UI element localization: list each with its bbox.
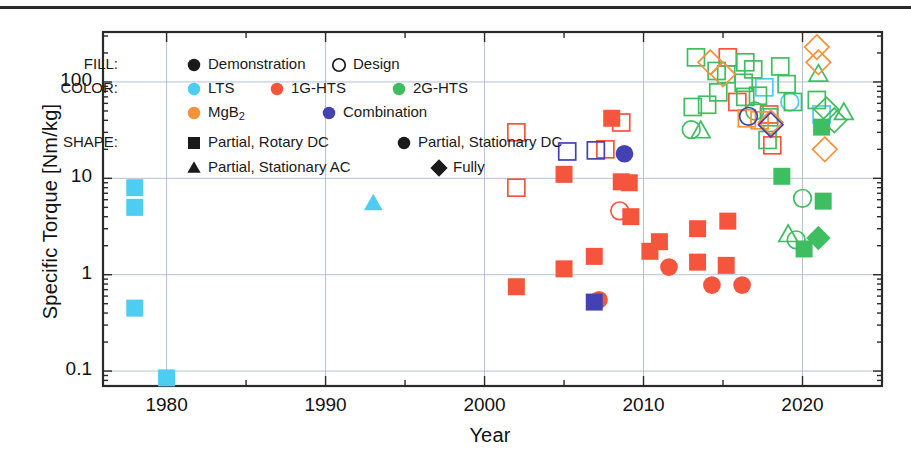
data-point <box>813 137 837 161</box>
data-point <box>586 294 603 311</box>
data-point <box>764 137 781 154</box>
y-tick-label: 0.1 <box>22 358 92 380</box>
data-point <box>689 220 706 237</box>
y-axis-title: Specific Torque [Nm/kg] <box>39 82 62 342</box>
data-point <box>126 300 143 317</box>
data-point <box>719 213 736 230</box>
data-point <box>587 142 604 159</box>
data-point <box>603 110 620 127</box>
legend-section-caption: FILL: <box>84 55 118 72</box>
legend-item-label: 1G-HTS <box>291 79 346 96</box>
legend-item-label: Design <box>353 55 400 72</box>
data-point <box>806 50 830 74</box>
data-point <box>733 276 751 294</box>
subscript: 2 <box>239 110 245 122</box>
legend-marker-square <box>185 134 203 152</box>
data-point <box>126 179 143 196</box>
legend-marker-circle <box>185 104 203 122</box>
legend-item-label: 2G-HTS <box>413 79 468 96</box>
legend-marker-diamond <box>430 159 448 177</box>
legend-item-label: Partial, Stationary AC <box>208 158 351 175</box>
data-point <box>621 174 638 191</box>
x-tick-label: 1980 <box>127 394 207 416</box>
data-point <box>682 121 700 139</box>
data-point <box>772 58 789 75</box>
x-tick-label: 2010 <box>604 394 684 416</box>
legend-marker-circle <box>320 104 338 122</box>
legend-item-label: Partial, Rotary DC <box>208 133 329 150</box>
data-point <box>660 258 678 276</box>
data-points <box>126 35 853 387</box>
data-point <box>781 93 799 111</box>
data-point <box>126 199 143 216</box>
data-point <box>556 166 573 183</box>
data-point <box>703 276 721 294</box>
y-tick-label: 1 <box>22 262 92 284</box>
data-point <box>616 145 634 163</box>
x-tick-label: 2000 <box>445 394 525 416</box>
legend-item-label: Fully <box>453 158 485 175</box>
legend-item-label: Partial, Stationary DC <box>418 133 562 150</box>
legend-marker-circle <box>330 56 348 74</box>
data-point <box>508 278 525 295</box>
data-point <box>622 208 639 225</box>
data-point <box>556 260 573 277</box>
x-tick-label: 2020 <box>763 394 843 416</box>
legend-marker-triangle <box>185 159 203 177</box>
x-tick-label: 1990 <box>286 394 366 416</box>
legend-marker-circle <box>390 80 408 98</box>
data-point <box>641 243 658 260</box>
data-point <box>813 119 830 136</box>
legend-item-label: MgB2 <box>208 103 245 122</box>
data-point <box>778 76 795 93</box>
legend-item-label: Demonstration <box>208 55 306 72</box>
legend-marker-circle <box>268 80 286 98</box>
legend-section-caption: SHAPE: <box>63 133 118 150</box>
legend-marker-circle <box>395 134 413 152</box>
data-point <box>796 240 813 257</box>
legend-marker-circle <box>185 56 203 74</box>
data-point <box>815 193 832 210</box>
legend-item-label: LTS <box>208 79 234 96</box>
chart-figure: Specific Torque [Nm/kg] Year 0.1110100 1… <box>0 0 911 467</box>
data-point <box>158 369 175 386</box>
data-point <box>718 257 735 274</box>
legend-item-label: Combination <box>343 103 427 120</box>
data-point <box>586 248 603 265</box>
data-point <box>805 35 829 59</box>
data-point <box>689 254 706 271</box>
data-point <box>773 168 790 185</box>
legend-marker-circle <box>185 80 203 98</box>
y-tick-label: 10 <box>22 165 92 187</box>
data-point <box>508 179 525 196</box>
data-point <box>364 194 383 210</box>
legend-section-caption: COLOR: <box>60 79 118 96</box>
data-point <box>597 141 614 158</box>
series-lts <box>126 79 830 387</box>
x-axis-title: Year <box>400 424 580 447</box>
